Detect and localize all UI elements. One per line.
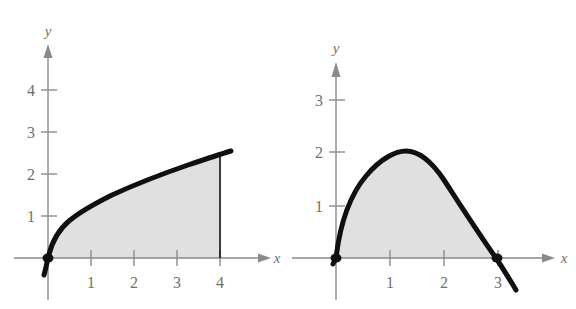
chart-panel-right: 1 2 3 1 2 3 y x — [288, 0, 576, 309]
y-axis-arrow-left — [44, 44, 53, 58]
endpoint-dot-origin-left — [43, 254, 54, 263]
x-tick-label-2-left: 2 — [130, 274, 138, 291]
y-tick-label-1-right: 1 — [315, 198, 323, 215]
y-axis-label-right: y — [331, 40, 340, 56]
y-axis-label-left: y — [43, 23, 52, 39]
x-tick-label-4-left: 4 — [216, 274, 224, 291]
x-tick-label-1-left: 1 — [87, 274, 95, 291]
y-tick-label-1-left: 1 — [27, 208, 35, 225]
chart-panel-left: 1 2 3 4 1 2 3 4 y x — [0, 0, 288, 309]
x-axis-arrow-left — [258, 254, 271, 263]
y-axis-arrow-right — [332, 62, 341, 77]
x-axis-arrow-right — [542, 254, 555, 263]
y-tick-label-3-left: 3 — [27, 124, 35, 141]
shaded-region-left — [48, 155, 220, 258]
y-tick-label-2-left: 2 — [27, 166, 35, 183]
y-tick-label-2-right: 2 — [315, 144, 323, 161]
x-axis-label-left: x — [273, 250, 281, 266]
x-axis-label-right: x — [560, 250, 568, 266]
shaded-region-right — [336, 152, 495, 258]
figure-container: 1 2 3 4 1 2 3 4 y x — [0, 0, 576, 309]
y-tick-label-4-left: 4 — [27, 82, 35, 99]
x-tick-label-3-left: 3 — [173, 274, 181, 291]
x-tick-label-3-right: 3 — [494, 274, 502, 291]
left-plot-svg: 1 2 3 4 1 2 3 4 y x — [0, 0, 288, 309]
y-tick-label-3-right: 3 — [315, 92, 323, 109]
x-tick-label-2-right: 2 — [440, 274, 448, 291]
x-tick-label-1-right: 1 — [386, 274, 394, 291]
right-plot-svg: 1 2 3 1 2 3 y x — [288, 0, 576, 309]
endpoint-dot-origin-right — [331, 254, 342, 263]
endpoint-dot-x3-right — [492, 254, 503, 263]
